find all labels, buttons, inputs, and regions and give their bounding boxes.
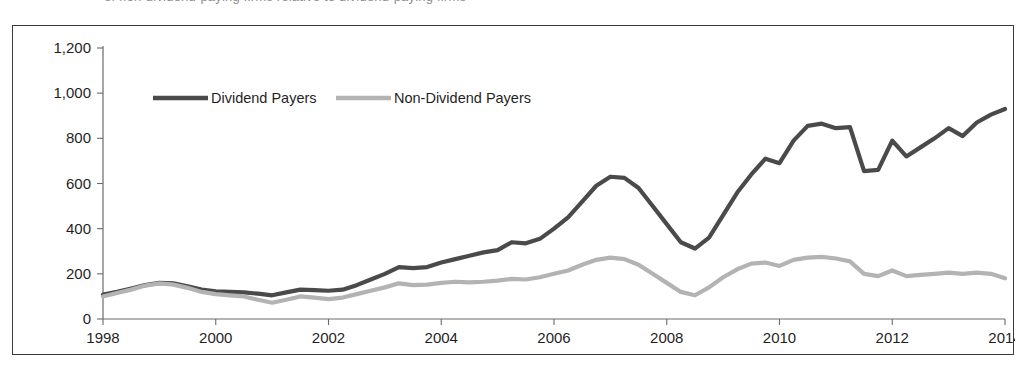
x-axis-tick-label: 2004 [425, 329, 458, 346]
x-axis-tick-label: 2002 [312, 329, 345, 346]
x-axis-tick-label: 2000 [199, 329, 232, 346]
y-axis-tick-label: 200 [66, 265, 91, 282]
y-axis-tick-label: 800 [66, 129, 91, 146]
legend-label-1: Dividend Payers [211, 90, 317, 106]
y-axis-tick-label: 1,000 [53, 84, 91, 101]
x-axis-tick-label: 2014 [988, 329, 1015, 346]
x-axis-tick-label: 2010 [763, 329, 796, 346]
figure-frame: 02004006008001,0001,20019982000200220042… [12, 25, 1014, 355]
x-axis-tick-label: 1998 [86, 329, 119, 346]
y-axis-tick-label: 0 [83, 310, 91, 327]
y-axis-tick-label: 1,200 [53, 39, 91, 56]
x-axis-tick-label: 2008 [650, 329, 683, 346]
caption-text: of non-dividend-paying firms relative to… [104, 0, 466, 4]
series-line-dividend-payers [103, 109, 1005, 295]
x-axis-tick-label: 2012 [876, 329, 909, 346]
x-axis-tick-label: 2006 [537, 329, 570, 346]
legend-label-2: Non-Dividend Payers [394, 90, 531, 106]
y-axis-tick-label: 400 [66, 220, 91, 237]
series-line-non-dividend-payers [103, 257, 1005, 303]
y-axis-tick-label: 600 [66, 175, 91, 192]
chart-plot-area: 02004006008001,0001,20019982000200220042… [13, 26, 1015, 356]
cut-off-caption-strip: of non-dividend-paying firms relative to… [0, 0, 1031, 14]
line-chart: 02004006008001,0001,20019982000200220042… [13, 26, 1015, 356]
